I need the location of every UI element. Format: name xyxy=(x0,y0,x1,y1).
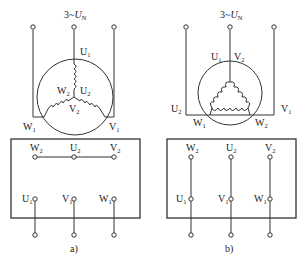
label-u2-b: U2 xyxy=(171,103,181,115)
box-label-u2-b: U2 xyxy=(226,142,236,154)
terminal-top-a-2 xyxy=(72,25,76,29)
delta-lead-w1 xyxy=(210,108,212,115)
caption-a: a) xyxy=(70,243,78,255)
label-w2-a: W2 xyxy=(57,85,70,97)
label-w1-a: W1 xyxy=(23,121,36,133)
lead-terminal-a-3 xyxy=(112,233,116,237)
box-terminal-v2-a xyxy=(112,155,116,159)
box-label-v2-b: V2 xyxy=(265,142,275,154)
box-label-w1-a: W1 xyxy=(99,193,112,205)
winding-u-coil-icon xyxy=(74,59,76,97)
supply-label-a: 3~UN xyxy=(64,9,87,21)
label-v1-b: V1 xyxy=(281,103,291,115)
box-terminal-u2-a xyxy=(72,155,76,159)
motor-housing-a xyxy=(37,59,113,135)
box-label-u1-a: U1 xyxy=(22,193,32,205)
label-u1-b: U1 xyxy=(211,51,221,63)
box-terminal-u2-b xyxy=(229,155,233,159)
lead-terminal-a-2 xyxy=(72,233,76,237)
terminal-top-a-1 xyxy=(31,25,35,29)
box-label-v1-a: V1 xyxy=(62,193,72,205)
box-label-v1-b: V1 xyxy=(218,193,228,205)
terminal-top-b-2 xyxy=(228,25,232,29)
box-terminal-u1-b xyxy=(189,197,193,201)
box-label-v2-a: V2 xyxy=(110,142,120,154)
terminal-top-a-3 xyxy=(112,25,116,29)
box-label-u2-a: U2 xyxy=(70,142,80,154)
box-terminal-v2-b xyxy=(268,155,272,159)
label-v2-a: V2 xyxy=(69,103,79,115)
box-terminal-w2-a xyxy=(33,155,37,159)
label-w2-b: W2 xyxy=(255,117,268,129)
lead-terminal-b-3 xyxy=(268,233,272,237)
delta-winding-bottom-coil-icon xyxy=(212,108,248,111)
label-w1-b: W1 xyxy=(193,117,206,129)
box-terminal-w1-b xyxy=(268,197,272,201)
label-v1-a: V1 xyxy=(109,121,119,133)
panel-b-delta-connection: 3~UN U1 V2 U2 V1 W1 W2 W2 xyxy=(167,9,296,255)
caption-b: b) xyxy=(225,243,233,255)
box-terminal-u1-a xyxy=(33,197,37,201)
lead-terminal-b-1 xyxy=(189,233,193,237)
delta-winding-left-coil-icon xyxy=(210,82,230,108)
panel-a-star-connection: 3~UN U1 W2 U2 V2 W1 V1 xyxy=(11,9,140,255)
box-label-w1-b: W1 xyxy=(254,193,267,205)
terminal-top-b-3 xyxy=(272,25,276,29)
box-label-w2-a: W2 xyxy=(30,142,43,154)
delta-lead-w2 xyxy=(248,108,250,115)
lead-terminal-b-2 xyxy=(229,233,233,237)
terminal-top-b-1 xyxy=(184,25,188,29)
lead-terminal-a-1 xyxy=(33,233,37,237)
label-u1-a: U1 xyxy=(80,46,90,58)
box-label-u1-b: U1 xyxy=(176,193,186,205)
supply-label-b: 3~UN xyxy=(220,9,243,21)
box-terminal-v1-b xyxy=(229,197,233,201)
motor-connection-diagram: 3~UN U1 W2 U2 V2 W1 V1 xyxy=(0,0,304,264)
label-v2-b: V2 xyxy=(234,51,244,63)
label-u2-a: U2 xyxy=(80,85,90,97)
delta-winding-right-coil-icon xyxy=(230,82,250,108)
box-terminal-w2-b xyxy=(189,155,193,159)
box-terminal-w1-a xyxy=(112,197,116,201)
box-label-w2-b: W2 xyxy=(186,142,199,154)
